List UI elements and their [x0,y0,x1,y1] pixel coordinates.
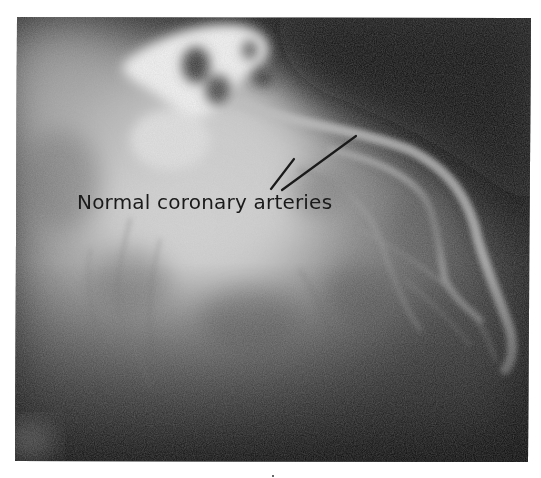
annotation-label: Normal coronary arteries [77,192,332,212]
angiogram-image [0,0,541,478]
scan-artifact [272,475,274,477]
angiogram-figure: Normal coronary arteries [0,0,541,478]
